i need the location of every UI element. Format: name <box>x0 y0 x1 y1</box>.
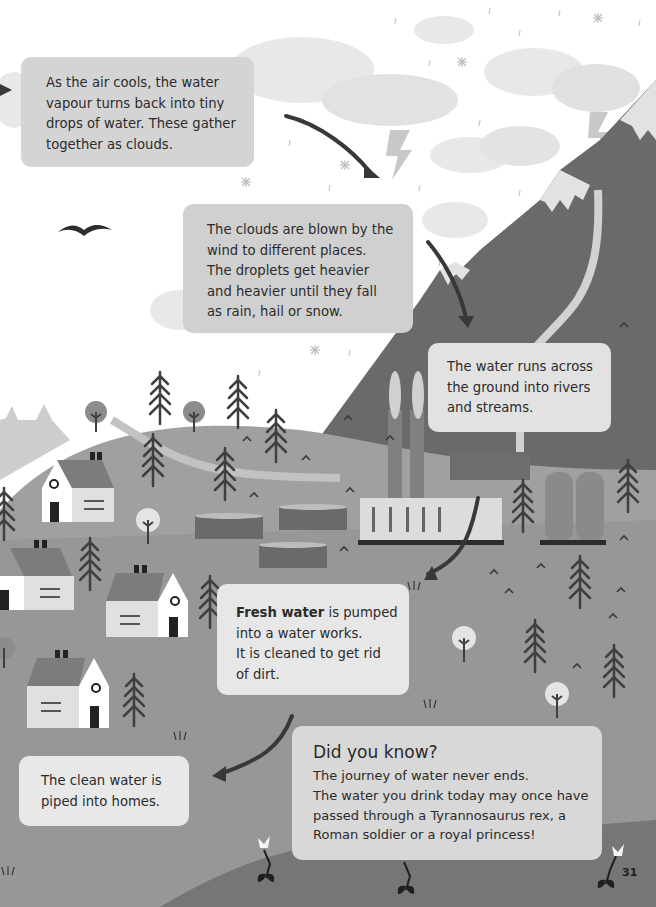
did-you-know-title: Did you know? <box>313 740 602 764</box>
fact-line: Roman soldier or a royal princess! <box>313 825 602 845</box>
caption-text: is pumped <box>324 605 397 620</box>
caption-line: the ground into rivers <box>447 378 611 399</box>
did-you-know-body: The journey of water never ends. The wat… <box>313 766 602 845</box>
caption-precipitation: The clouds are blown by the wind to diff… <box>183 204 413 333</box>
caption-line: as rain, hail or snow. <box>207 302 413 323</box>
caption-line: vapour turns back into tiny <box>46 94 254 115</box>
caption-line: piped into homes. <box>41 792 189 813</box>
caption-line: into a water works. <box>236 624 409 645</box>
caption-line: together as clouds. <box>46 135 254 156</box>
caption-water-works: Fresh water is pumped into a water works… <box>217 584 409 695</box>
did-you-know-box: Did you know? The journey of water never… <box>292 726 602 860</box>
caption-condensation: As the air cools, the water vapour turns… <box>21 57 254 167</box>
caption-homes: The clean water is piped into homes. <box>19 756 189 826</box>
caption-runoff: The water runs across the ground into ri… <box>428 343 611 432</box>
book-page: As the air cools, the water vapour turns… <box>0 0 656 907</box>
caption-line: The clean water is <box>41 771 189 792</box>
caption-line: Fresh water is pumped <box>236 603 409 624</box>
caption-line: and streams. <box>447 398 611 419</box>
fact-line: The water you drink today may once have <box>313 786 602 806</box>
caption-line: drops of water. These gather <box>46 114 254 135</box>
caption-line: As the air cools, the water <box>46 73 254 94</box>
caption-line: It is cleaned to get rid <box>236 644 409 665</box>
fact-line: The journey of water never ends. <box>313 766 602 786</box>
caption-line: The droplets get heavier <box>207 261 413 282</box>
bold-lead: Fresh water <box>236 605 324 620</box>
bird <box>58 225 112 236</box>
caption-line: and heavier until they fall <box>207 282 413 303</box>
caption-line: The water runs across <box>447 357 611 378</box>
caption-line: The clouds are blown by the <box>207 220 413 241</box>
caption-line: wind to different places. <box>207 241 413 262</box>
caption-line: of dirt. <box>236 665 409 686</box>
fact-line: passed through a Tyrannosaurus rex, a <box>313 806 602 826</box>
page-number: 31 <box>622 866 637 879</box>
